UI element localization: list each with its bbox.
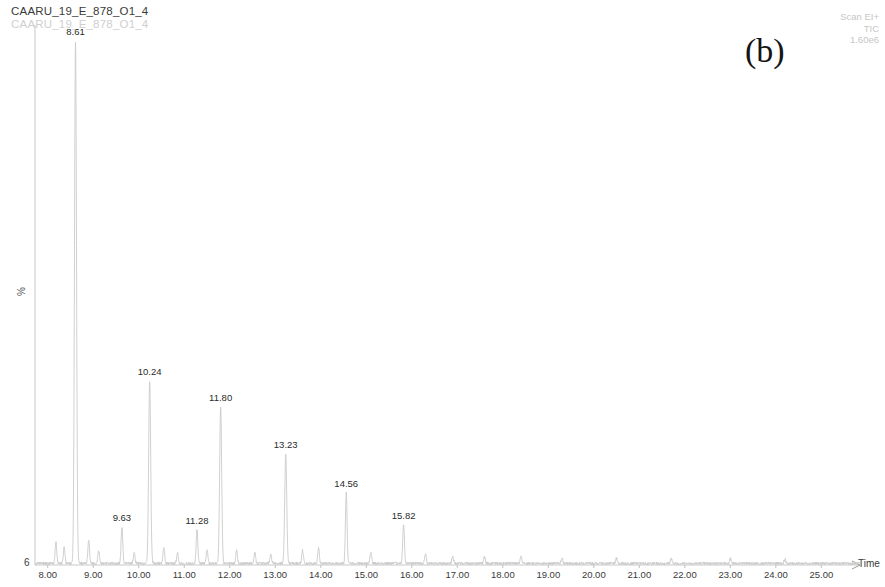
x-axis-tick-label: 16.00 [400,569,424,580]
peak-label-11-28: 11.28 [185,515,208,526]
peak-label-9-63: 9.63 [113,512,132,523]
chromatogram-plot [0,0,885,587]
x-axis-tick-label: 14.00 [309,569,333,580]
x-axis-title: Time [858,558,880,569]
peak-label-10-24: 10.24 [138,366,162,377]
x-axis-tick-label: 18.00 [491,569,515,580]
acquisition-info: Scan EI+ TIC 1.60e6 [840,11,879,46]
peak-label-8-61: 8.61 [66,26,85,37]
y-axis-origin-label: 6 [24,557,30,568]
x-axis-tick-label: 8.00 [38,569,57,580]
tic-trace-path [35,42,860,565]
x-axis-tick-label: 23.00 [718,569,742,580]
panel-label-b: (b) [745,32,785,70]
peak-label-11-80: 11.80 [209,392,232,403]
x-axis-tick-label: 21.00 [627,569,651,580]
x-axis-tick-label: 24.00 [764,569,788,580]
x-axis-tick-label: 12.00 [218,569,242,580]
x-axis-tick-label: 15.00 [354,569,378,580]
x-axis-tick-label: 20.00 [582,569,606,580]
x-axis-tick-label: 10.00 [127,569,151,580]
x-axis-tick-label: 13.00 [263,569,287,580]
x-axis-tick-label: 22.00 [673,569,697,580]
plot-axes [35,25,860,569]
sample-name-title: CAARU_19_E_878_O1_4 [11,5,148,17]
x-axis-tick-label: 17.00 [445,569,469,580]
x-axis-tick-label: 9.00 [84,569,103,580]
peak-label-13-23: 13.23 [274,439,298,450]
y-axis-title: % [16,287,27,296]
tic-trace [35,42,860,565]
trace-type-label: TIC [840,23,879,35]
x-axis-tick-label: 11.00 [173,569,196,580]
peak-label-15-82: 15.82 [392,510,416,521]
x-axis-tick-label: 19.00 [536,569,560,580]
peak-label-14-56: 14.56 [334,478,358,489]
scan-mode-label: Scan EI+ [840,11,879,23]
intensity-label: 1.60e6 [840,34,879,46]
x-axis-tick-label: 25.00 [809,569,833,580]
